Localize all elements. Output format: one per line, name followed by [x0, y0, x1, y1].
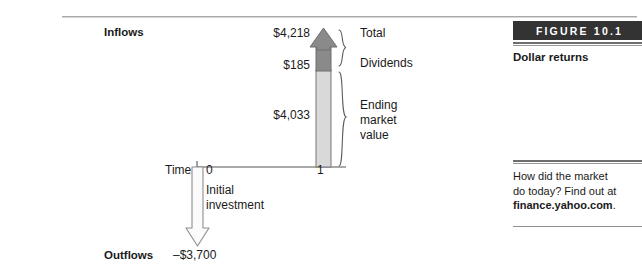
figure-sidebar: FIGURE 10.1 Dollar returns How did the m… — [500, 0, 642, 279]
ending-market-value-label: Ending market value — [360, 98, 397, 143]
figure-caption: Dollar returns — [513, 51, 588, 63]
sidebar-rule-bottom — [513, 226, 642, 227]
time-tick-label-1: 1 — [317, 163, 324, 178]
ending-label-line3: value — [360, 128, 389, 142]
initial-investment-label: Initial investment — [206, 183, 264, 213]
ending-label-line1: Ending — [360, 98, 397, 112]
sidebar-rule-middle — [513, 160, 642, 165]
sidebar-note-line1: How did the market — [513, 170, 608, 182]
time-tick-label-0: 0 — [206, 163, 213, 178]
ending-label-line2: market — [360, 113, 397, 127]
inflow-shaft-ending-market-value — [316, 70, 331, 167]
figure-number-badge: FIGURE 10.1 — [513, 21, 642, 40]
dividends-value: $185 — [248, 58, 310, 73]
sidebar-note-line2: do today? Find out at — [513, 185, 616, 197]
brace-ending-market-value — [339, 72, 346, 166]
initial-label-line1: Initial — [206, 183, 234, 197]
dividends-label: Dividends — [360, 56, 413, 71]
outflow-value: –$3,700 — [173, 248, 216, 263]
sidebar-rule-top — [513, 42, 642, 47]
sidebar-note: How did the market do today? Find out at… — [513, 169, 642, 213]
inflows-label: Inflows — [104, 25, 144, 39]
figure-page: Inflows Outflows –$3,700 $4,218 $185 $4,… — [0, 0, 642, 279]
inflow-arrowhead — [310, 28, 337, 50]
yahoo-finance-link[interactable]: finance.yahoo.com — [513, 199, 613, 211]
total-value: $4,218 — [248, 26, 310, 41]
initial-label-line2: investment — [206, 198, 264, 212]
sidebar-note-period: . — [613, 199, 616, 211]
ending-market-value-amount: $4,033 — [240, 108, 310, 123]
dollar-returns-diagram: Inflows Outflows –$3,700 $4,218 $185 $4,… — [0, 0, 500, 279]
brace-dividends — [339, 30, 346, 66]
time-axis-label: Time — [165, 163, 191, 178]
total-label: Total — [360, 26, 385, 41]
diagram-vectors — [0, 0, 500, 279]
outflows-label: Outflows — [104, 248, 153, 262]
